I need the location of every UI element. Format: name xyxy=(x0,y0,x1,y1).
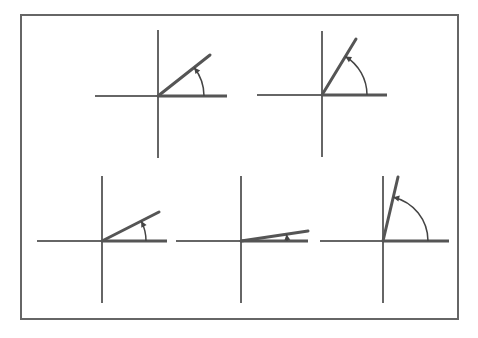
angle-diagram-5 xyxy=(320,176,449,303)
angle-arc xyxy=(345,57,367,96)
terminal-side xyxy=(383,177,398,241)
terminal-side xyxy=(322,39,356,95)
angle-diagram-3 xyxy=(37,176,167,303)
terminal-side xyxy=(158,55,210,96)
angle-diagram-2 xyxy=(257,31,387,157)
angle-diagram-4 xyxy=(176,176,308,303)
diagram-group xyxy=(37,30,449,303)
angle-diagram-1 xyxy=(95,30,227,158)
terminal-side xyxy=(102,212,159,241)
figure-frame xyxy=(21,15,458,319)
angle-diagrams-figure xyxy=(0,0,478,338)
angle-arc xyxy=(393,197,428,241)
